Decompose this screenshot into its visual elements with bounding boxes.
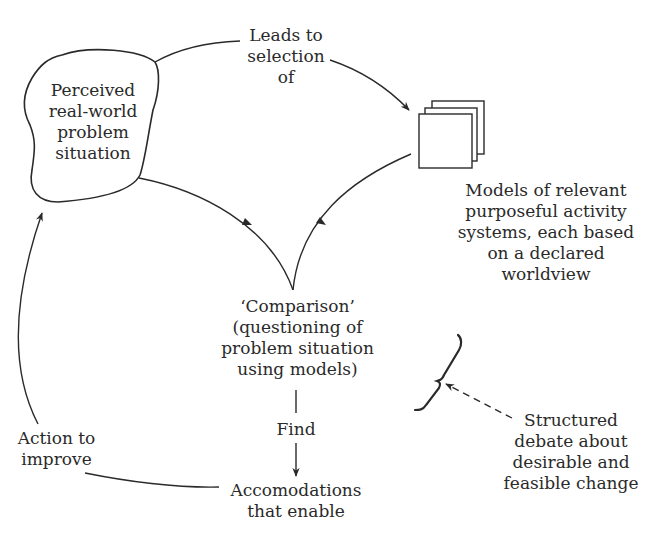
debate-brace (415, 335, 461, 410)
node-structured-debate: Structured debate about desirable and fe… (496, 410, 645, 494)
models-stack-icon (419, 101, 484, 168)
node-models: Models of relevant purposeful activity s… (446, 180, 645, 285)
node-problem-situation: Perceived real-world problem situation (38, 80, 148, 164)
arrow-to-models (330, 60, 409, 110)
connector-accommodations-to-action (85, 473, 219, 487)
node-accommodations: Accomodations that enable (216, 480, 376, 522)
arrow-blob-to-comparison (139, 178, 293, 290)
connector-blob-to-leads (155, 41, 240, 62)
edge-label-find: Find (266, 419, 326, 440)
node-comparison: ‘Comparison’ (questioning of problem sit… (210, 296, 385, 380)
arrow-models-to-comparison (293, 154, 411, 290)
edge-label-action-to-improve: Action to improve (4, 428, 109, 470)
arrow-action-to-blob (18, 213, 42, 424)
edge-label-leads-to: Leads to selection of (236, 25, 336, 88)
